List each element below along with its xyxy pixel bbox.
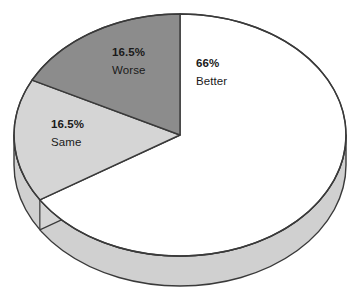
slice-label-worse: 16.5% Worse [112, 47, 146, 76]
slice-label-better: 66% Better [196, 58, 227, 87]
slice-name-worse: Worse [112, 65, 146, 77]
slice-value-better: 66% [196, 58, 227, 70]
slice-value-worse: 16.5% [112, 47, 146, 59]
slice-name-same: Same [51, 137, 84, 149]
slice-label-same: 16.5% Same [51, 119, 84, 148]
slice-name-better: Better [196, 76, 227, 88]
slice-value-same: 16.5% [51, 119, 84, 131]
pie-chart: 66% Better 16.5% Worse 16.5% Same [0, 0, 356, 295]
